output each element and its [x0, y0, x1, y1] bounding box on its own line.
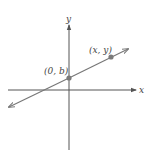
coordinate-diagram: y x (0, b) (x, y) — [0, 0, 149, 160]
point-y-intercept — [66, 75, 71, 80]
graph-line-extension — [9, 78, 69, 107]
point-label-general: (x, y) — [89, 45, 112, 55]
point-general — [108, 54, 113, 59]
y-axis-label: y — [65, 14, 72, 24]
x-axis-label: x — [139, 85, 144, 95]
point-label-y-intercept: (0, b) — [44, 66, 69, 76]
